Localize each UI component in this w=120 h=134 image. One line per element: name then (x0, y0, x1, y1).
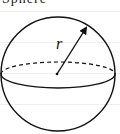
radius-label: r (56, 35, 63, 52)
sphere-diagram: r (0, 0, 120, 134)
equator-front-solid (1, 74, 115, 88)
